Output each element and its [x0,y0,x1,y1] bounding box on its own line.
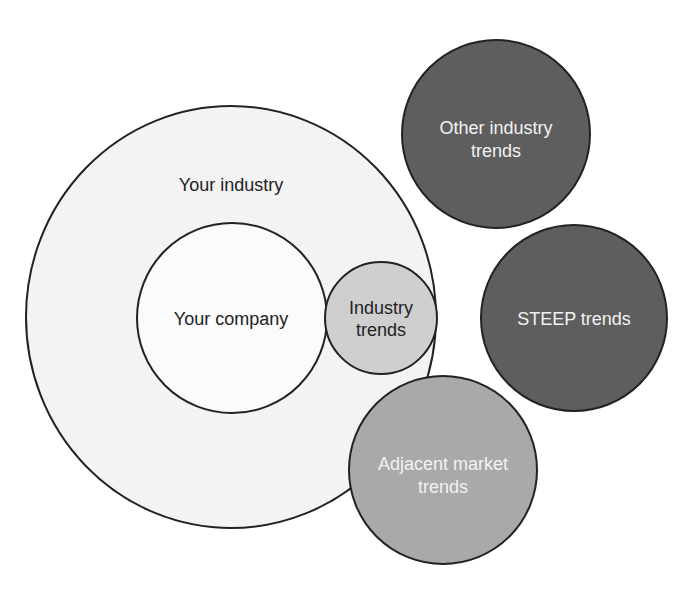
other-industry-trends-label-line1: Other industry [439,118,552,138]
steep-trends-circle: STEEP trends [481,225,667,411]
industry-trends-circle: Industry trends [325,262,437,374]
your-industry-label: Your industry [179,175,283,195]
industry-trends-label-line1: Industry [349,298,413,318]
trend-circles-diagram: Your industry Your company Industry tren… [0,0,694,589]
your-company-label: Your company [174,309,288,329]
adjacent-market-trends-circle: Adjacent market trends [349,376,537,564]
steep-trends-label: STEEP trends [517,309,631,329]
your-company-circle: Your company [137,223,327,413]
adjacent-market-trends-label-line2: trends [418,477,468,497]
other-industry-trends-label-line2: trends [471,141,521,161]
other-industry-trends-circle: Other industry trends [402,40,590,228]
adjacent-market-trends-label-line1: Adjacent market [378,454,508,474]
industry-trends-label-line2: trends [356,320,406,340]
